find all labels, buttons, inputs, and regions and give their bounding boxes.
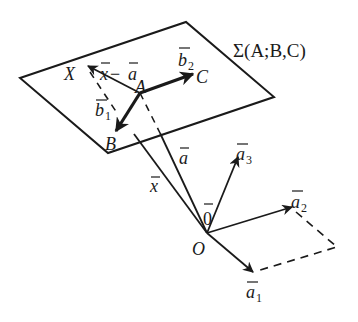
svg-text:3: 3 [246,153,252,167]
svg-text:2: 2 [301,201,307,215]
label-a2: a 2 [291,191,307,215]
svg-text:−: − [110,64,120,84]
label-x: x [149,176,160,196]
svg-text:a: a [236,144,245,164]
point-b-label: B [105,134,116,154]
label-b2: b 2 [178,48,194,73]
svg-text:a: a [179,148,188,168]
vector-plane-diagram: Σ(A;B,C) X A B C O x − a b 2 b 1 a x 0 a [0,0,358,322]
svg-text:a: a [128,64,137,84]
svg-text:0: 0 [203,209,212,229]
label-x-minus-a: x − a [99,63,138,84]
svg-text:a: a [291,192,300,212]
svg-text:b: b [95,100,104,120]
diagram-canvas: Σ(A;B,C) X A B C O x − a b 2 b 1 a x 0 a [0,0,358,322]
svg-text:x: x [99,64,108,84]
label-a1: a 1 [246,282,262,305]
label-b1: b 1 [95,100,111,123]
svg-text:a: a [246,282,255,302]
svg-text:1: 1 [256,291,262,305]
origin-o-label: O [192,239,205,259]
label-a3: a 3 [236,144,252,167]
label-a: a [179,148,189,168]
vector-x-line [134,134,207,233]
vector-a2 [207,207,292,233]
svg-text:b: b [178,50,187,70]
point-x-label: X [63,64,76,84]
label-zero-vector: 0 [203,204,213,229]
svg-text:x: x [149,176,158,196]
vector-b2 [140,74,193,93]
svg-text:1: 1 [105,109,111,123]
a1-a2-dashed-parallelogram [260,212,337,270]
svg-text:2: 2 [188,59,194,73]
point-c-label: C [196,67,209,87]
plane-label: Σ(A;B,C) [233,40,306,62]
a-dashed-segment [140,93,160,133]
vector-a1 [207,233,253,272]
vector-b1 [116,93,140,131]
